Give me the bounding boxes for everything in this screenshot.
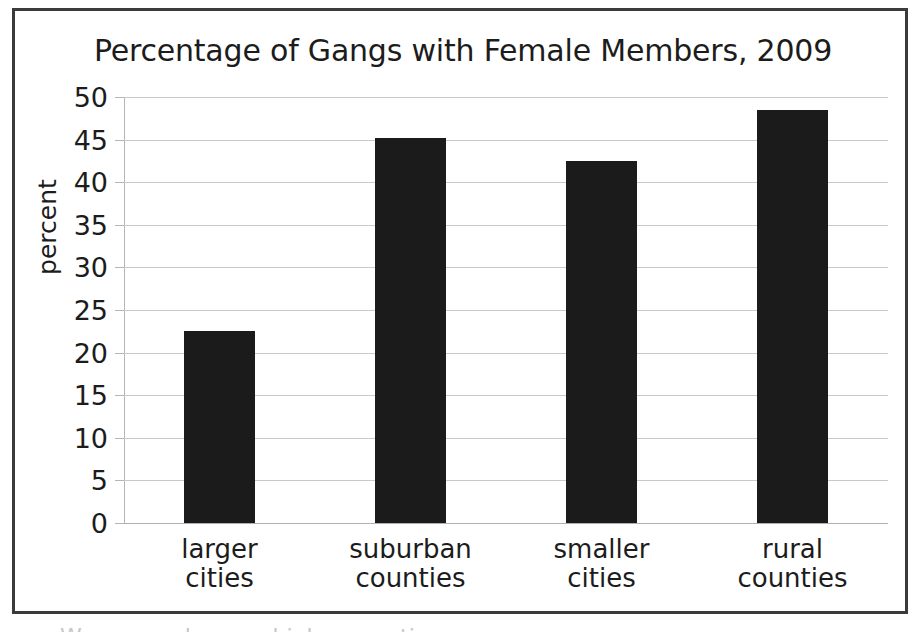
y-axis-tick-label: 20 bbox=[74, 337, 108, 368]
y-axis-tick bbox=[115, 395, 124, 396]
y-axis-tick bbox=[115, 438, 124, 439]
y-axis-tick-label: 40 bbox=[74, 167, 108, 198]
y-axis-tick bbox=[115, 523, 124, 524]
y-axis-tick bbox=[115, 225, 124, 226]
y-axis-tick-label: 45 bbox=[74, 124, 108, 155]
gridline bbox=[124, 523, 888, 524]
y-axis-tick-label: 25 bbox=[74, 295, 108, 326]
y-axis-tick-label: 35 bbox=[74, 209, 108, 240]
y-axis-tick bbox=[115, 353, 124, 354]
x-axis-category-label: rural counties bbox=[697, 535, 888, 593]
bar bbox=[375, 138, 446, 523]
chart-title: Percentage of Gangs with Female Members,… bbox=[15, 33, 911, 68]
y-axis-tick bbox=[115, 267, 124, 268]
y-axis-tick-label: 15 bbox=[74, 380, 108, 411]
y-axis-tick-label: 50 bbox=[74, 82, 108, 113]
y-axis-tick-label: 0 bbox=[91, 508, 108, 539]
chart-figure-frame: Percentage of Gangs with Female Members,… bbox=[12, 8, 908, 614]
bar bbox=[757, 110, 828, 523]
y-axis-tick-label: 30 bbox=[74, 252, 108, 283]
y-axis-tick bbox=[115, 182, 124, 183]
y-axis-tick-label: 5 bbox=[91, 465, 108, 496]
clipped-caption-text: Women make up a high proportion bbox=[60, 624, 760, 632]
y-axis-title: percent bbox=[33, 179, 62, 275]
y-axis-tick bbox=[115, 480, 124, 481]
y-axis-tick bbox=[115, 97, 124, 98]
plot-area: 05101520253035404550 larger citiessuburb… bbox=[124, 97, 888, 523]
bar bbox=[184, 331, 255, 523]
gridline bbox=[124, 97, 888, 98]
x-axis-category-label: suburban counties bbox=[315, 535, 506, 593]
x-axis-category-label: larger cities bbox=[124, 535, 315, 593]
y-axis-tick-label: 10 bbox=[74, 422, 108, 453]
x-axis-category-label: smaller cities bbox=[506, 535, 697, 593]
bar bbox=[566, 161, 637, 523]
y-axis-tick bbox=[115, 310, 124, 311]
y-axis-tick bbox=[115, 140, 124, 141]
